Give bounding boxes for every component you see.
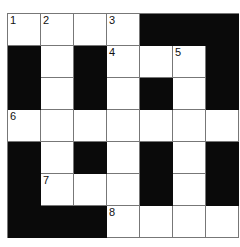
crossword-cell[interactable]: 5: [173, 46, 206, 78]
crossword-cell[interactable]: [140, 206, 173, 238]
crossword-cell[interactable]: 6: [8, 110, 41, 142]
clue-number: 8: [109, 207, 115, 218]
crossword-cell[interactable]: [140, 110, 173, 142]
black-cell: [8, 142, 41, 174]
clue-number: 5: [175, 47, 181, 58]
clue-number: 1: [10, 15, 16, 26]
crossword-cell[interactable]: [41, 110, 74, 142]
crossword-cell[interactable]: [173, 206, 206, 238]
clue-number: 6: [10, 111, 16, 122]
crossword-cell[interactable]: [74, 14, 107, 46]
crossword-cell[interactable]: [41, 46, 74, 78]
crossword-cell[interactable]: [173, 142, 206, 174]
crossword-cell[interactable]: [107, 78, 140, 110]
black-cell: [74, 206, 107, 238]
crossword-cell[interactable]: 7: [41, 174, 74, 206]
crossword-cell[interactable]: [41, 78, 74, 110]
black-cell: [173, 14, 206, 46]
crossword-cell[interactable]: [74, 110, 107, 142]
crossword-cell[interactable]: 8: [107, 206, 140, 238]
clue-number: 3: [109, 15, 115, 26]
crossword-cell[interactable]: [140, 46, 173, 78]
crossword-cell[interactable]: [173, 78, 206, 110]
crossword-cell[interactable]: [173, 174, 206, 206]
black-cell: [206, 78, 239, 110]
clue-number: 4: [109, 47, 115, 58]
black-cell: [140, 78, 173, 110]
black-cell: [206, 174, 239, 206]
crossword-cell[interactable]: 2: [41, 14, 74, 46]
black-cell: [74, 78, 107, 110]
black-cell: [41, 206, 74, 238]
black-cell: [74, 142, 107, 174]
black-cell: [140, 174, 173, 206]
crossword-cell[interactable]: [206, 110, 239, 142]
crossword-cell[interactable]: [173, 110, 206, 142]
black-cell: [8, 78, 41, 110]
black-cell: [206, 46, 239, 78]
black-cell: [206, 14, 239, 46]
crossword-grid: 12345678: [7, 13, 239, 238]
crossword-cell[interactable]: 1: [8, 14, 41, 46]
black-cell: [206, 142, 239, 174]
black-cell: [8, 46, 41, 78]
crossword-cell[interactable]: [74, 174, 107, 206]
crossword-cell[interactable]: 4: [107, 46, 140, 78]
clue-number: 2: [43, 15, 49, 26]
black-cell: [8, 174, 41, 206]
crossword-cell[interactable]: [107, 142, 140, 174]
black-cell: [140, 14, 173, 46]
crossword-cell[interactable]: 3: [107, 14, 140, 46]
black-cell: [140, 142, 173, 174]
crossword-cell[interactable]: [107, 110, 140, 142]
crossword-cell[interactable]: [41, 142, 74, 174]
black-cell: [74, 46, 107, 78]
crossword-cell[interactable]: [107, 174, 140, 206]
crossword-cell[interactable]: [206, 206, 239, 238]
clue-number: 7: [43, 175, 49, 186]
black-cell: [8, 206, 41, 238]
